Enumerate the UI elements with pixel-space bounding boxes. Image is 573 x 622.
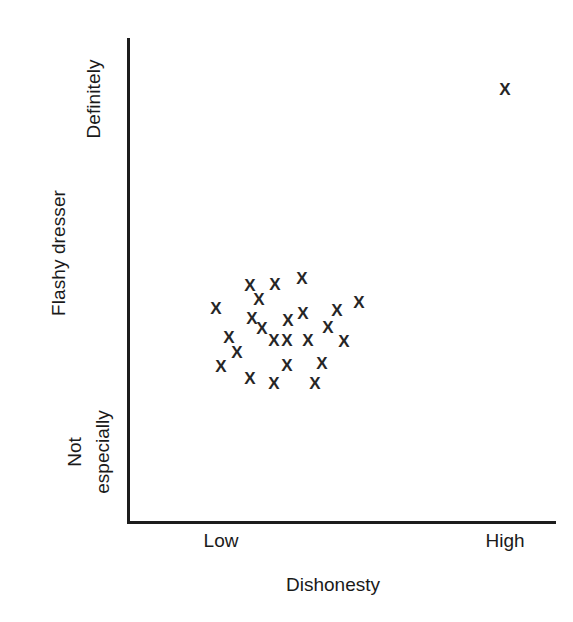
data-point-marker: X bbox=[331, 302, 342, 319]
data-point-marker: X bbox=[215, 358, 226, 375]
data-point-marker: X bbox=[210, 300, 221, 317]
data-point-marker: X bbox=[297, 305, 308, 322]
data-point-marker: X bbox=[296, 270, 307, 287]
data-point-marker: X bbox=[499, 81, 510, 98]
data-point-marker: X bbox=[281, 332, 292, 349]
data-point-marker: X bbox=[268, 375, 279, 392]
scatter-chart-figure: Flashy dresser Definitely Not especially… bbox=[0, 0, 573, 622]
data-point-marker: X bbox=[282, 312, 293, 329]
data-point-marker: X bbox=[281, 357, 292, 374]
data-point-marker: X bbox=[302, 332, 313, 349]
data-point-marker: X bbox=[316, 355, 327, 372]
data-point-marker: X bbox=[231, 344, 242, 361]
data-point-marker: X bbox=[268, 332, 279, 349]
plot-area: XXXXXXXXXXXXXXXXXXXXXXXXX bbox=[0, 0, 573, 622]
data-point-marker: X bbox=[353, 294, 364, 311]
data-point-marker: X bbox=[309, 375, 320, 392]
data-point-marker: X bbox=[256, 320, 267, 337]
data-point-marker: X bbox=[244, 370, 255, 387]
data-point-marker: X bbox=[338, 333, 349, 350]
data-point-marker: X bbox=[269, 276, 280, 293]
data-point-marker: X bbox=[322, 319, 333, 336]
data-point-marker: X bbox=[253, 291, 264, 308]
